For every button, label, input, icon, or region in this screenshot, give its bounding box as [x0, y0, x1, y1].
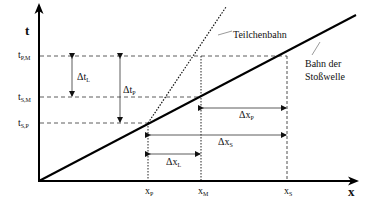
delta-x-p-label: ΔxP [239, 109, 254, 121]
delta-x-s-label: ΔxS [218, 136, 233, 148]
t-sp-label: tS,P [18, 117, 30, 129]
shock-path-leader [312, 42, 320, 55]
x-s-label: xS [284, 185, 292, 197]
shock-path-annotation-line2: Stoßwelle [305, 71, 346, 82]
delta-t-p-label: ΔtP [123, 84, 136, 96]
particle-path-leader [218, 31, 232, 35]
particle-path-line [148, 7, 226, 123]
t-sm-label: tS,M [18, 91, 32, 103]
delta-x-l-label: ΔxL [166, 156, 181, 168]
shock-wave-path-line [39, 15, 356, 181]
t-pm-label: tP,M [18, 49, 31, 61]
x-m-label: xM [198, 185, 209, 197]
x-axis-label: x [348, 184, 355, 199]
particle-path-annotation: Teilchenbahn [233, 29, 287, 40]
t-axis-label: t [25, 23, 30, 38]
shock-wave-diagram: t x tP,M tS,M tS,P xP xM xS ΔtL ΔtP ΔxP … [0, 0, 389, 207]
x-p-label: xP [145, 185, 154, 197]
delta-t-l-label: ΔtL [77, 71, 90, 83]
shock-path-annotation-line1: Bahn der [305, 58, 342, 69]
